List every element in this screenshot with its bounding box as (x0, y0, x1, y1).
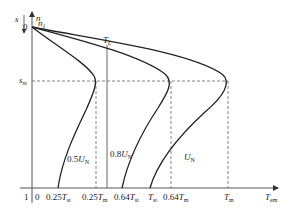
s-one-label: 1 (24, 192, 29, 202)
curve-label-0.5UN: 0.5UN (67, 154, 90, 165)
Tem-axis-label: Tem (265, 192, 278, 203)
n1-label: n1 (38, 18, 46, 29)
tick-Tst: Tst (148, 192, 157, 203)
TL-label: TL (103, 35, 112, 46)
sm-label: sm (19, 75, 28, 86)
curve-label-0.8UN: 0.8UN (110, 149, 133, 160)
tick-064Tst: 0.64Tst (114, 192, 139, 203)
tick-064Tm: 0.64Tm (163, 192, 189, 203)
s-axis-label: s (15, 14, 19, 24)
tick-Tm: Tm (224, 192, 234, 203)
tick-025Tst: 0.25Tst (46, 192, 71, 203)
tick-025Tm: 0.25Tm (82, 192, 108, 203)
curve-label-UN: UN (184, 152, 196, 163)
torque-slip-diagram: s n 0 n1 sm TL 0.5UN 0.8UN UN 1 0 0.25Ts… (0, 0, 289, 213)
origin-zero-label: 0 (23, 22, 28, 32)
curve-0.8UN (32, 27, 169, 188)
x-zero-label: 0 (35, 192, 40, 202)
